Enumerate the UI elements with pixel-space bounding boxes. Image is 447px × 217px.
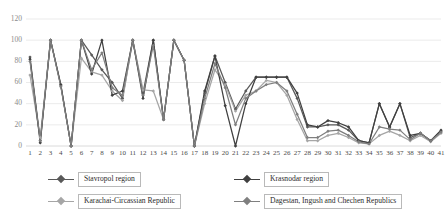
- x-tick-label: 32: [345, 149, 353, 157]
- x-tick-label: 13: [150, 149, 158, 157]
- data-point-marker: [337, 121, 340, 124]
- legend-label: Karachai-Circassian Republic: [78, 194, 181, 209]
- x-tick-label: 37: [396, 149, 404, 157]
- data-point-marker: [234, 144, 237, 147]
- x-tick-label: 24: [263, 149, 271, 157]
- y-tick-label: 100: [11, 35, 23, 44]
- data-point-marker: [162, 118, 165, 121]
- x-tick-label: 14: [160, 149, 168, 157]
- y-tick-label: 0: [18, 141, 22, 150]
- y-tick-label: 40: [15, 98, 23, 107]
- x-tick-label: 1: [28, 149, 32, 157]
- x-tick-label: 17: [191, 149, 199, 157]
- legend-item-stavropol-region[interactable]: Stavropol region: [48, 168, 234, 190]
- legend-marker-icon: [234, 196, 260, 207]
- y-tick-label: 120: [11, 14, 23, 23]
- x-tick-label: 9: [110, 149, 114, 157]
- data-point-marker: [69, 144, 72, 147]
- x-tick-label: 2: [39, 149, 43, 157]
- x-tick-label: 20: [222, 149, 230, 157]
- x-tick-label: 8: [100, 149, 104, 157]
- data-point-marker: [213, 54, 216, 57]
- data-point-marker: [275, 76, 278, 79]
- x-tick-label: 5: [69, 149, 73, 157]
- series-markers: [28, 38, 442, 147]
- x-tick-label: 7: [90, 149, 94, 157]
- x-tick-label: 25: [273, 149, 281, 157]
- x-tick-label: 26: [283, 149, 291, 157]
- x-tick-label: 11: [129, 149, 136, 157]
- legend-marker-icon: [48, 174, 74, 185]
- x-tick-label: 35: [376, 149, 384, 157]
- x-tick-label: 22: [242, 149, 250, 157]
- data-point-marker: [388, 127, 391, 130]
- data-point-marker: [111, 94, 114, 97]
- data-point-marker: [193, 144, 196, 147]
- x-axis-tick-labels: 1234567891011121314151617181920212223242…: [28, 149, 445, 157]
- data-point-marker: [49, 38, 52, 41]
- legend-label: Stavropol region: [78, 172, 141, 187]
- legend-item-dagestan-ingush-chechen-republics[interactable]: Dagestan, Ingush and Chechen Republics: [234, 190, 447, 212]
- x-tick-label: 34: [366, 149, 374, 157]
- legend-label: Krasnodar region: [264, 172, 329, 187]
- x-tick-label: 10: [119, 149, 127, 157]
- chart-legend: Stavropol region Krasnodar region Karach…: [0, 165, 447, 217]
- legend-item-karachai-circassian-republic[interactable]: Karachai-Circassian Republic: [48, 190, 234, 212]
- x-tick-label: 39: [417, 149, 425, 157]
- x-tick-label: 28: [304, 149, 312, 157]
- x-tick-label: 21: [232, 149, 240, 157]
- x-tick-label: 15: [170, 149, 178, 157]
- data-point-marker: [326, 123, 329, 126]
- legend-marker-icon: [48, 196, 74, 207]
- x-tick-label: 19: [211, 149, 219, 157]
- data-point-marker: [265, 76, 268, 79]
- data-point-marker: [131, 38, 134, 41]
- x-tick-label: 6: [80, 149, 84, 157]
- legend-marker-icon: [234, 174, 260, 185]
- x-tick-label: 41: [438, 149, 446, 157]
- x-tick-label: 12: [140, 149, 148, 157]
- x-tick-label: 4: [59, 149, 63, 157]
- data-point-marker: [337, 132, 340, 135]
- data-point-marker: [152, 38, 155, 41]
- x-tick-label: 38: [407, 149, 415, 157]
- y-tick-label: 80: [15, 56, 23, 65]
- x-tick-label: 27: [294, 149, 302, 157]
- x-tick-label: 31: [335, 149, 343, 157]
- x-tick-label: 30: [324, 149, 332, 157]
- x-tick-label: 3: [49, 149, 53, 157]
- data-point-marker: [39, 139, 42, 142]
- y-axis-tick-labels: 020406080100120: [11, 14, 23, 150]
- x-tick-label: 23: [253, 149, 261, 157]
- data-point-marker: [100, 38, 103, 41]
- y-tick-label: 20: [15, 120, 23, 129]
- data-point-marker: [141, 97, 144, 100]
- x-tick-label: 18: [201, 149, 209, 157]
- y-tick-label: 60: [15, 77, 23, 86]
- x-tick-label: 33: [355, 149, 363, 157]
- x-tick-label: 16: [181, 149, 189, 157]
- x-tick-label: 40: [427, 149, 435, 157]
- x-tick-label: 36: [386, 149, 394, 157]
- line-chart: 020406080100120 123456789101112131415161…: [0, 0, 447, 217]
- data-point-marker: [152, 89, 155, 92]
- data-point-marker: [224, 104, 227, 107]
- data-point-marker: [234, 123, 237, 126]
- legend-item-krasnodar-region[interactable]: Krasnodar region: [234, 168, 447, 190]
- x-tick-label: 29: [314, 149, 322, 157]
- legend-label: Dagestan, Ingush and Chechen Republics: [264, 194, 402, 209]
